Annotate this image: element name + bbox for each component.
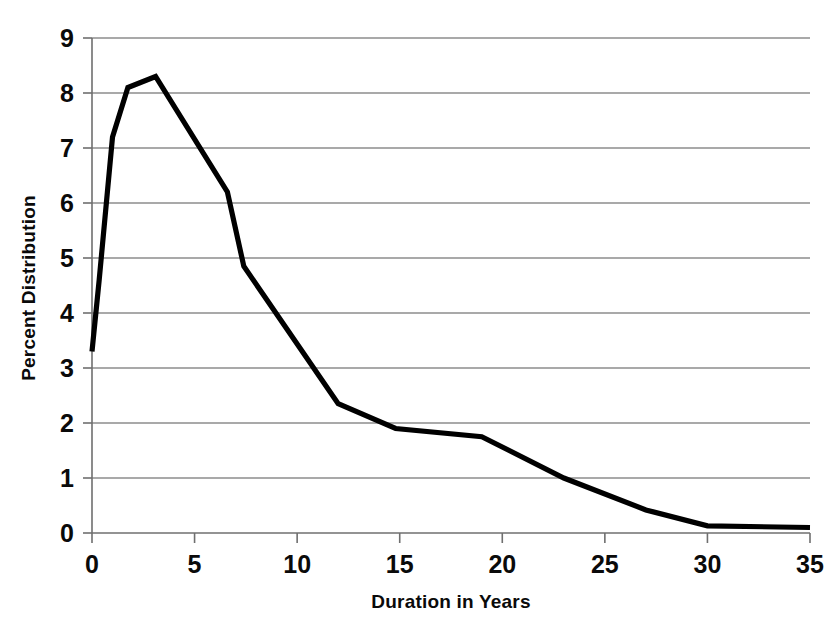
x-tick-label: 0 bbox=[85, 550, 99, 578]
line-chart: 05101520253035 0123456789 Duration in Ye… bbox=[0, 0, 837, 634]
y-tick-label: 3 bbox=[60, 354, 74, 382]
y-tick-label: 9 bbox=[60, 24, 74, 52]
y-tick-label: 1 bbox=[60, 464, 74, 492]
x-tick-label: 10 bbox=[283, 550, 311, 578]
y-tick-label: 4 bbox=[60, 299, 74, 327]
chart-container: 05101520253035 0123456789 Duration in Ye… bbox=[0, 0, 837, 634]
x-axis-title: Duration in Years bbox=[371, 591, 530, 612]
y-tick-label: 0 bbox=[60, 519, 74, 547]
x-tick-label: 5 bbox=[188, 550, 202, 578]
y-tick-label: 6 bbox=[60, 189, 74, 217]
y-tick-label: 7 bbox=[60, 134, 74, 162]
x-tick-label: 25 bbox=[591, 550, 619, 578]
x-tick-label: 20 bbox=[488, 550, 516, 578]
x-tick-label: 35 bbox=[796, 550, 824, 578]
y-tick-label: 2 bbox=[60, 409, 74, 437]
y-tick-label: 5 bbox=[60, 244, 74, 272]
x-tick-label: 15 bbox=[386, 550, 414, 578]
y-axis-title: Percent Distribution bbox=[18, 195, 39, 381]
x-tick-label: 30 bbox=[694, 550, 722, 578]
y-tick-label: 8 bbox=[60, 79, 74, 107]
